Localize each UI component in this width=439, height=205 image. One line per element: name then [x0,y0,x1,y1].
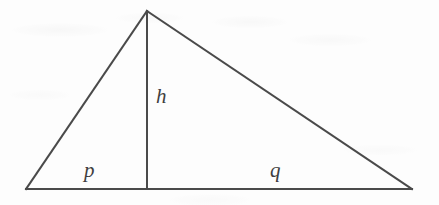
altitude-label-h: h [156,86,167,107]
base-left-segment-label-p: p [84,160,95,181]
base-right-segment-label-q: q [270,160,281,181]
geometry-figure: h p q [0,0,439,205]
triangle-diagram [0,0,439,205]
